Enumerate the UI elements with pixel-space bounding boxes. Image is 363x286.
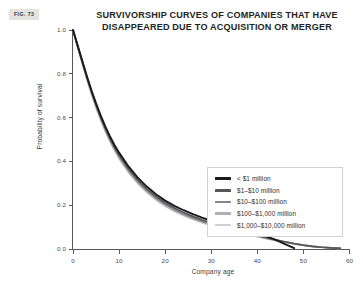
legend-item-label: $1,000–$10,000 million bbox=[237, 222, 305, 229]
legend-item: $10–$100 million bbox=[215, 196, 336, 208]
legend-item: $1–$10 million bbox=[215, 185, 336, 197]
survivorship-curves bbox=[0, 0, 363, 286]
legend-item: < $1 million bbox=[215, 173, 336, 185]
legend-color-swatch bbox=[215, 189, 231, 191]
legend-item-label: < $1 million bbox=[237, 175, 271, 182]
legend-color-swatch bbox=[215, 224, 231, 226]
legend-item-label: $1–$10 million bbox=[237, 187, 280, 194]
chart-legend: < $1 million$1–$10 million$10–$100 milli… bbox=[207, 167, 343, 237]
legend-item-label: $10–$100 million bbox=[237, 198, 287, 205]
legend-color-swatch bbox=[215, 212, 231, 214]
legend-item: $1,000–$10,000 million bbox=[215, 219, 336, 231]
legend-color-swatch bbox=[215, 177, 231, 180]
legend-item-label: $100–$1,000 million bbox=[237, 210, 296, 217]
legend-color-swatch bbox=[215, 201, 231, 203]
legend-item: $100–$1,000 million bbox=[215, 208, 336, 220]
